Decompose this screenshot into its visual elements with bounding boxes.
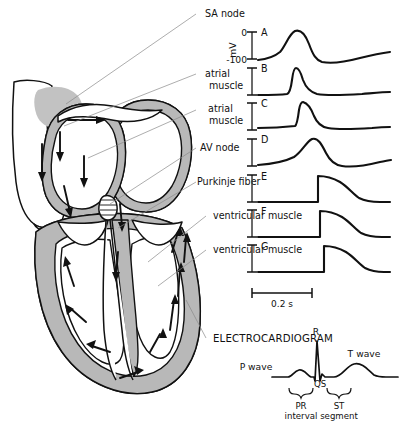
trace-id-a: A (261, 27, 268, 38)
label-trace-g: ventricular muscle (213, 244, 302, 255)
av-node (99, 195, 117, 220)
label-trace-c-line1: atrial (208, 103, 233, 114)
ecg-p-wave-label: P wave (240, 361, 273, 372)
label-trace-f: ventricular muscle (213, 210, 302, 221)
pr-interval-label-line2: interval (285, 411, 318, 421)
trace-id-c: C (261, 98, 268, 109)
figure-svg: SA node atrial muscle atrial muscle AV n… (0, 0, 408, 421)
label-trace-a: SA node (205, 8, 245, 19)
label-trace-d: AV node (200, 142, 240, 153)
mv-top-tick-label: 0 (241, 27, 247, 38)
label-trace-c-line2: muscle (209, 115, 243, 126)
st-segment-label-line1: ST (334, 401, 345, 411)
pr-interval-label-line1: PR (295, 401, 306, 411)
ecg-r-label: R (313, 326, 320, 337)
time-scale-label: 0.2 s (271, 299, 293, 309)
label-trace-b-line2: muscle (209, 80, 243, 91)
trace-id-g: G (261, 241, 268, 252)
st-segment-label-line2: segment (320, 411, 358, 421)
label-trace-e: Purkinje fiber (197, 176, 261, 187)
trace-id-f: F (261, 206, 267, 217)
cardiac-conduction-figure: SA node atrial muscle atrial muscle AV n… (0, 0, 408, 421)
ecg-t-wave-label: T wave (347, 348, 381, 359)
trace-id-d: D (261, 134, 268, 145)
mv-bottom-tick-label: -100 (226, 54, 247, 65)
trace-id-e: E (261, 171, 267, 182)
label-trace-b-line1: atrial (205, 68, 230, 79)
trace-id-b: B (261, 63, 268, 74)
